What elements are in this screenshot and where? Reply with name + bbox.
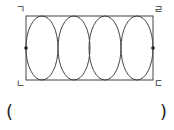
circle-2 [58,16,90,80]
right-midpoint-dot [151,46,155,50]
circle-4 [121,16,153,80]
circle-3 [89,16,121,80]
label-top-left: ㄱ [16,5,25,15]
answer-open-paren: ( [6,103,13,121]
left-midpoint-dot [24,46,28,50]
label-top-right: ㄹ [154,5,163,15]
answer-blank[interactable] [20,104,156,122]
answer-close-paren: ) [160,103,167,121]
circle-1 [26,16,58,80]
label-bottom-left: ㄴ [16,79,25,89]
label-bottom-right: ㄷ [154,79,163,89]
